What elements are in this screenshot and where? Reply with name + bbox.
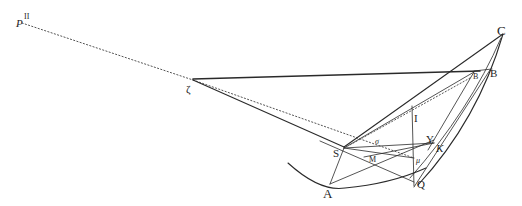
line-zeta-b (193, 71, 480, 79)
label-s: S (333, 147, 339, 159)
label-q: Q (417, 178, 425, 190)
label-y: Y (426, 133, 434, 145)
label-b-small: B (473, 72, 478, 81)
dotted-line-p-zeta (22, 23, 193, 80)
label-p: P (15, 17, 23, 29)
label-b: B (490, 67, 497, 79)
arc-through-a (288, 163, 426, 188)
curve-c-k-inner (410, 38, 501, 178)
label-c: C (497, 23, 506, 38)
geometric-figure: P II ζ C B B I S σ M Y K μ A Q (0, 0, 522, 206)
line-c-s (344, 34, 503, 147)
label-zeta: ζ (186, 83, 191, 96)
line-zeta-s (193, 80, 344, 147)
label-k: K (435, 142, 444, 154)
line-b-s (344, 72, 474, 148)
label-a: A (323, 186, 333, 201)
line-Bsmall-down (428, 72, 474, 150)
label-sigma: σ (375, 137, 380, 146)
label-p-superscript: II (24, 12, 30, 21)
curve-c-k (418, 34, 503, 185)
dotted-line-b-s (348, 78, 470, 146)
label-i: I (414, 112, 418, 124)
label-m: M (369, 155, 376, 164)
label-mu: μ (415, 156, 420, 165)
